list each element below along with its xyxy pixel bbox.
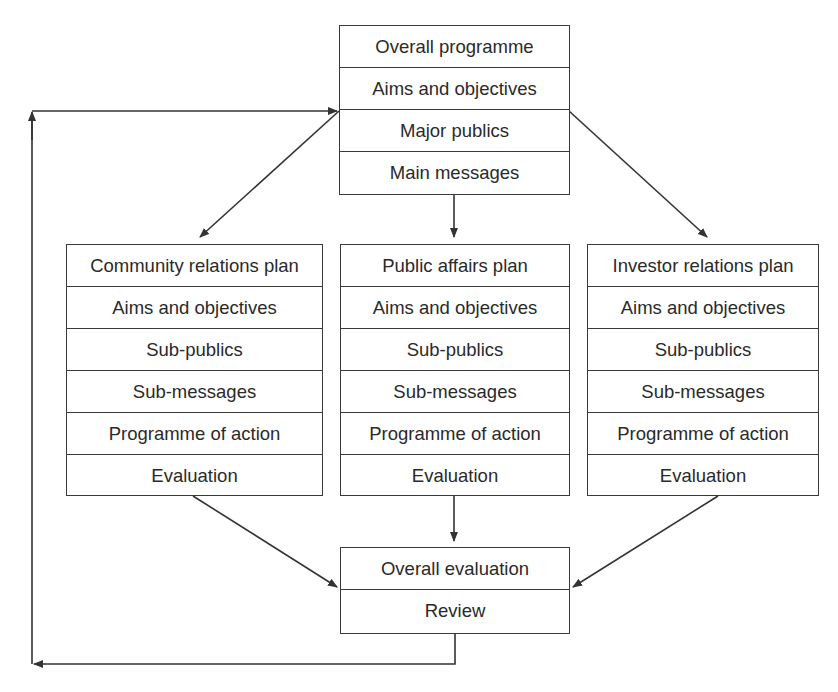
arrow-top-to-community: [200, 111, 339, 237]
community-relations-plan-box: Community relations plan Aims and object…: [66, 244, 323, 496]
plan-title: Public affairs plan: [341, 245, 569, 287]
plan-programme-of-action: Programme of action: [341, 413, 569, 455]
feedback-line-bottom: [34, 633, 455, 664]
plan-programme-of-action: Programme of action: [67, 413, 322, 455]
plan-sub-publics: Sub-publics: [341, 329, 569, 371]
overall-evaluation-box: Overall evaluation Review: [340, 547, 570, 634]
plan-sub-messages: Sub-messages: [588, 371, 818, 413]
overall-evaluation: Overall evaluation: [341, 548, 569, 590]
plan-programme-of-action: Programme of action: [588, 413, 818, 455]
plan-sub-messages: Sub-messages: [341, 371, 569, 413]
overall-aims: Aims and objectives: [340, 68, 569, 110]
main-messages: Main messages: [340, 152, 569, 194]
public-affairs-plan-box: Public affairs plan Aims and objectives …: [340, 244, 570, 496]
plan-title: Community relations plan: [67, 245, 322, 287]
investor-relations-plan-box: Investor relations plan Aims and objecti…: [587, 244, 819, 496]
major-publics: Major publics: [340, 110, 569, 152]
plan-sub-publics: Sub-publics: [588, 329, 818, 371]
plan-evaluation: Evaluation: [67, 455, 322, 497]
plan-sub-publics: Sub-publics: [67, 329, 322, 371]
plan-evaluation: Evaluation: [341, 455, 569, 497]
plan-sub-messages: Sub-messages: [67, 371, 322, 413]
overall-programme-box: Overall programme Aims and objectives Ma…: [339, 25, 570, 195]
arrow-top-to-investor: [569, 111, 707, 237]
arrow-investor-to-evaluation: [573, 496, 718, 587]
plan-evaluation: Evaluation: [588, 455, 818, 497]
plan-aims: Aims and objectives: [341, 287, 569, 329]
plan-aims: Aims and objectives: [67, 287, 322, 329]
overall-programme-title: Overall programme: [340, 26, 569, 68]
arrow-community-to-evaluation: [193, 496, 337, 587]
plan-aims: Aims and objectives: [588, 287, 818, 329]
review: Review: [341, 590, 569, 632]
plan-title: Investor relations plan: [588, 245, 818, 287]
